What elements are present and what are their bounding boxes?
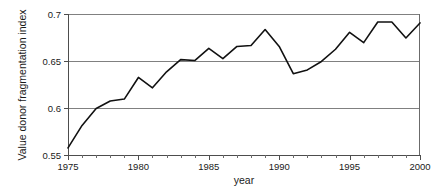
y-tick-label-0.7: 0.7 [48, 9, 61, 20]
x-tick-label-2000: 2000 [409, 161, 430, 172]
y-axis-tick-labels: 0.7 0.65 0.6 0.55 [43, 9, 62, 161]
y-axis-title: Value donor fragmentation index [16, 9, 28, 161]
x-tick-label-1995: 1995 [339, 161, 360, 172]
y-tick-label-0.65: 0.65 [43, 56, 62, 67]
x-tick-label-1990: 1990 [269, 161, 290, 172]
x-tick-label-1980: 1980 [128, 161, 149, 172]
y-axis-ticks [64, 15, 68, 156]
y-tick-label-0.6: 0.6 [48, 103, 61, 114]
x-axis-tick-labels: 197519801985199019952000 [57, 161, 430, 172]
y-tick-label-0.55: 0.55 [43, 150, 62, 161]
x-axis-title: year [234, 174, 255, 186]
line-chart: 0.7 0.65 0.6 0.55 1975198019851990199520… [0, 0, 439, 190]
chart-figure: 0.7 0.65 0.6 0.55 1975198019851990199520… [0, 0, 439, 190]
x-tick-label-1975: 1975 [57, 161, 78, 172]
x-tick-label-1985: 1985 [198, 161, 219, 172]
plot-area-background [68, 14, 420, 155]
